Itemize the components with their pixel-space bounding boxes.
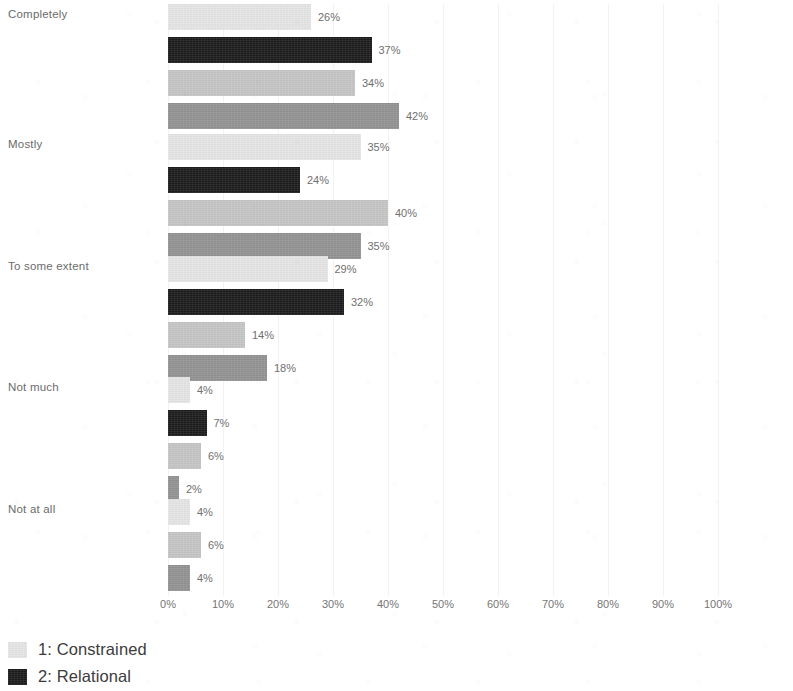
bar-value-label: 4% xyxy=(197,572,213,584)
bar-group: Mostly35%24%40%35% xyxy=(0,134,793,266)
bar-value-label: 4% xyxy=(197,506,213,518)
bar-row: 35% xyxy=(168,134,758,160)
bar-row: 4% xyxy=(168,377,758,403)
bar-value-label: 14% xyxy=(252,329,274,341)
bar[interactable] xyxy=(168,443,201,469)
bar-value-label: 24% xyxy=(307,174,329,186)
legend-label: 2: Relational xyxy=(38,667,131,686)
bar-value-label: 6% xyxy=(208,450,224,462)
bar[interactable] xyxy=(168,37,372,63)
bar-group: To some extent29%32%14%18% xyxy=(0,256,793,388)
bar-row: 24% xyxy=(168,167,758,193)
bar-value-label: 40% xyxy=(395,207,417,219)
bar-row: 26% xyxy=(168,4,758,30)
bar-value-label: 35% xyxy=(368,141,390,153)
bar[interactable] xyxy=(168,256,328,282)
bar[interactable] xyxy=(168,289,344,315)
bar[interactable] xyxy=(168,377,190,403)
category-label: Not much xyxy=(8,381,59,393)
bar-chart: Completely26%37%34%42%Mostly35%24%40%35%… xyxy=(0,0,793,691)
x-tick-label: 20% xyxy=(267,598,289,610)
bar-group: Not at all4%6%4% xyxy=(0,499,793,598)
bar-group: Completely26%37%34%42% xyxy=(0,4,793,136)
bar[interactable] xyxy=(168,4,311,30)
category-label: Completely xyxy=(8,8,68,20)
x-tick-label: 90% xyxy=(652,598,674,610)
bar-value-label: 29% xyxy=(335,263,357,275)
x-tick-label: 10% xyxy=(212,598,234,610)
bar-row: 42% xyxy=(168,103,758,129)
bar-value-label: 35% xyxy=(368,240,390,252)
bar[interactable] xyxy=(168,200,388,226)
legend-swatch-icon xyxy=(8,669,27,685)
bar-row: 37% xyxy=(168,37,758,63)
bar-row: 6% xyxy=(168,443,758,469)
plot-area: Completely26%37%34%42%Mostly35%24%40%35%… xyxy=(0,0,793,600)
bar[interactable] xyxy=(168,103,399,129)
bar-value-label: 32% xyxy=(351,296,373,308)
bar-value-label: 4% xyxy=(197,384,213,396)
x-tick-label: 60% xyxy=(487,598,509,610)
x-tick-label: 0% xyxy=(160,598,176,610)
bar-row: 32% xyxy=(168,289,758,315)
bar-row: 40% xyxy=(168,200,758,226)
bar[interactable] xyxy=(168,532,201,558)
legend-item[interactable]: 1: Constrained xyxy=(8,636,508,663)
bar-value-label: 18% xyxy=(274,362,296,374)
x-tick-label: 40% xyxy=(377,598,399,610)
legend-item[interactable]: 2: Relational xyxy=(8,663,508,690)
bar[interactable] xyxy=(168,167,300,193)
bar-row: 14% xyxy=(168,322,758,348)
bar-value-label: 26% xyxy=(318,11,340,23)
x-tick-label: 30% xyxy=(322,598,344,610)
bar-row: 4% xyxy=(168,499,758,525)
x-tick-label: 70% xyxy=(542,598,564,610)
bar[interactable] xyxy=(168,70,355,96)
x-tick-label: 50% xyxy=(432,598,454,610)
legend-label: 1: Constrained xyxy=(38,640,147,659)
bar-value-label: 42% xyxy=(406,110,428,122)
bar[interactable] xyxy=(168,410,207,436)
category-label: Not at all xyxy=(8,503,55,515)
bar-value-label: 6% xyxy=(208,539,224,551)
bar-row: 29% xyxy=(168,256,758,282)
bar[interactable] xyxy=(168,322,245,348)
bar-row: 6% xyxy=(168,532,758,558)
bar-group: Not much4%7%6%2% xyxy=(0,377,793,509)
bar-value-label: 7% xyxy=(214,417,230,429)
bar[interactable] xyxy=(168,134,361,160)
bar[interactable] xyxy=(168,565,190,591)
category-label: To some extent xyxy=(8,260,89,272)
chart-legend: 1: Constrained2: Relational xyxy=(8,636,508,690)
x-tick-label: 80% xyxy=(597,598,619,610)
bar-row: 4% xyxy=(168,565,758,591)
category-label: Mostly xyxy=(8,138,42,150)
bar[interactable] xyxy=(168,499,190,525)
legend-swatch-icon xyxy=(8,642,27,658)
x-axis: 0%10%20%30%40%50%60%70%80%90%100% xyxy=(0,598,793,622)
bar-value-label: 2% xyxy=(186,483,202,495)
x-tick-label: 100% xyxy=(704,598,732,610)
bar-value-label: 34% xyxy=(362,77,384,89)
bar-row: 7% xyxy=(168,410,758,436)
bar-value-label: 37% xyxy=(379,44,401,56)
bar-row: 34% xyxy=(168,70,758,96)
